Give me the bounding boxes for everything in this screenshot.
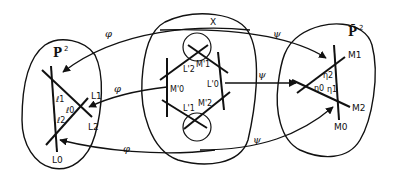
label-L2: L2 <box>88 122 99 132</box>
label-l0: ℓ0 <box>65 106 74 115</box>
left-plane-title: P 2 <box>53 45 68 60</box>
right-plane-title: P̄ 2 <box>348 23 363 39</box>
psi-label-middle: ψ <box>258 69 266 80</box>
phi-label-top: φ <box>105 28 112 39</box>
label-M1: M1 <box>348 50 362 60</box>
svg-text:P̄: P̄ <box>348 23 357 39</box>
diagram-canvas: P 2 L1 L2 L0 ℓ1 ℓ0 ℓ2 X L'2 M'1 M'0 L'0 … <box>0 0 394 179</box>
psi-label-top: ψ <box>273 28 281 39</box>
label-Mp1: M'1 <box>196 60 210 69</box>
label-Mp0: M'0 <box>170 85 184 94</box>
label-l1: ℓ1 <box>55 95 64 104</box>
label-l2: ℓ2 <box>56 116 65 125</box>
label-eta2: η2 <box>323 71 333 80</box>
phi-label-bottom: φ <box>123 143 130 154</box>
label-Lp2: L'2 <box>183 65 195 74</box>
label-eta1: η1 <box>327 85 337 94</box>
psi-arrow-bottom <box>200 107 333 150</box>
label-M2: M2 <box>352 103 366 113</box>
label-Lp1: L'1 <box>183 104 195 113</box>
phi-arrow-bottom <box>60 140 215 153</box>
svg-text:2: 2 <box>359 24 363 32</box>
label-eta0: η0 <box>314 84 324 93</box>
label-Lp0: L'0 <box>207 80 219 89</box>
psi-label-bottom: ψ <box>253 134 261 145</box>
label-X: X <box>210 17 216 27</box>
label-L0: L0 <box>52 155 63 165</box>
phi-label-middle: φ <box>114 83 121 94</box>
label-L1: L1 <box>91 91 102 101</box>
svg-text:P: P <box>53 46 62 60</box>
label-M0: M0 <box>334 122 348 132</box>
line-M0 <box>334 45 339 120</box>
svg-text:2: 2 <box>64 45 68 53</box>
label-Mp2: M'2 <box>198 99 212 108</box>
